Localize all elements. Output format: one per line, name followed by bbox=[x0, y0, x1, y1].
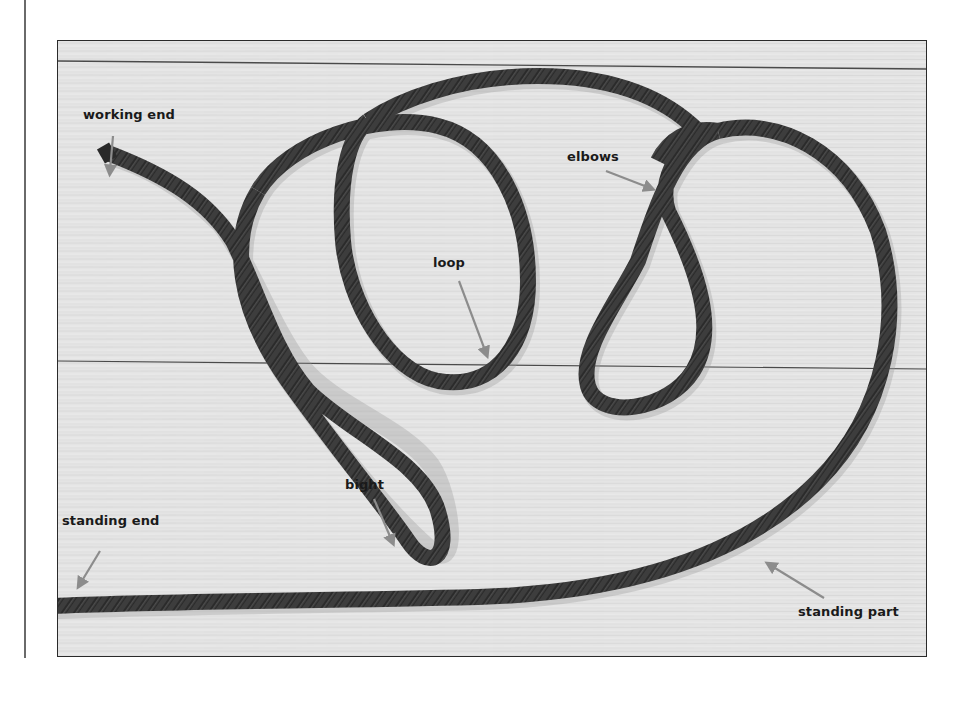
page-margin-rule bbox=[24, 0, 26, 658]
label-elbows: elbows bbox=[567, 149, 619, 164]
label-working-end: working end bbox=[83, 107, 175, 122]
rope-terminology-photo: working end elbows loop bight standing e… bbox=[57, 40, 927, 657]
label-standing-part: standing part bbox=[798, 604, 899, 619]
label-loop: loop bbox=[433, 255, 465, 270]
rope-illustration bbox=[58, 41, 927, 657]
label-bight: bight bbox=[345, 477, 384, 492]
label-standing-end: standing end bbox=[62, 513, 159, 528]
